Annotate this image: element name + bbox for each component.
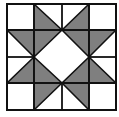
triangle-r2c0: [7, 57, 34, 83]
grid-lines: [7, 4, 116, 110]
triangle-r1c3: [89, 30, 116, 57]
triangle-r2c3: [89, 57, 116, 83]
quilt-block-diagram: [0, 0, 119, 117]
triangle-r2c1: [34, 57, 62, 83]
triangle-r0c2: [62, 4, 89, 30]
triangle-r0c1: [34, 4, 62, 30]
triangle-r1c1: [34, 30, 62, 57]
triangle-r3c1: [34, 83, 62, 110]
triangle-r2c2: [62, 57, 89, 83]
triangle-r1c2: [62, 30, 89, 57]
triangle-r1c0: [7, 30, 34, 57]
triangle-r3c2: [62, 83, 89, 110]
